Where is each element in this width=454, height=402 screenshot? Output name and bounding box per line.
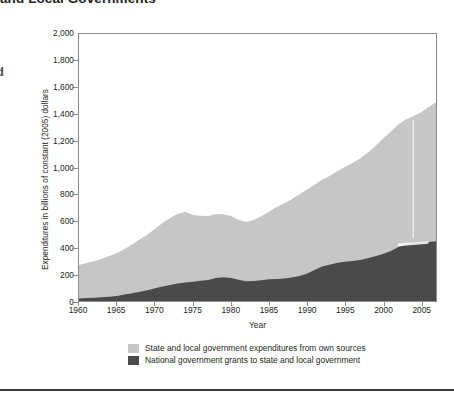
- x-tick-label: 1965: [96, 305, 136, 315]
- y-tick-label: 200: [36, 271, 74, 279]
- legend-swatch-national-grants: [128, 356, 139, 365]
- y-axis-tick-labels: 02004006008001,0001,2001,4001,6001,8002,…: [33, 33, 74, 302]
- stacked-area-chart: [79, 34, 436, 301]
- x-tick-label: 1995: [325, 305, 365, 315]
- legend-label-national-grants: National government grants to state and …: [145, 356, 360, 365]
- x-tick-label: 2005: [402, 305, 442, 315]
- footer-rule: [0, 389, 454, 391]
- chart-legend: State and local government expenditures …: [128, 343, 366, 367]
- y-tick-label: 800: [36, 190, 74, 198]
- legend-item-own-sources: State and local government expenditures …: [128, 343, 366, 353]
- y-tick-label: 1,000: [36, 164, 74, 172]
- x-tick-label: 1960: [58, 305, 98, 315]
- y-tick-label: 400: [36, 244, 74, 252]
- y-tick-label: 1,200: [36, 137, 74, 145]
- y-tick-label: 1,800: [36, 56, 74, 64]
- x-tick-label: 1970: [134, 305, 174, 315]
- x-tick-label: 1975: [173, 305, 213, 315]
- y-tick-label: 1,600: [36, 83, 74, 91]
- legend-item-national-grants: National government grants to state and …: [128, 355, 366, 365]
- y-tick-label: 2,000: [36, 29, 74, 37]
- chart-title-text: and Local Governments: [0, 0, 156, 6]
- plot-area: [78, 33, 437, 302]
- chart-title-clipped: and Local Governments: [0, 0, 454, 11]
- x-tick-label: 1990: [287, 305, 327, 315]
- y-tick-label: 600: [36, 217, 74, 225]
- y-tick-label: 1,400: [36, 110, 74, 118]
- legend-label-own-sources: State and local government expenditures …: [145, 344, 366, 353]
- left-margin-stub: d: [0, 64, 8, 80]
- x-axis-tick-labels: 1960196519701975198019851990199520002005: [78, 305, 437, 319]
- legend-swatch-own-sources: [128, 344, 139, 353]
- x-tick-label: 1980: [211, 305, 251, 315]
- x-tick-label: 1985: [249, 305, 289, 315]
- x-axis-label: Year: [78, 320, 437, 330]
- x-tick-label: 2000: [364, 305, 404, 315]
